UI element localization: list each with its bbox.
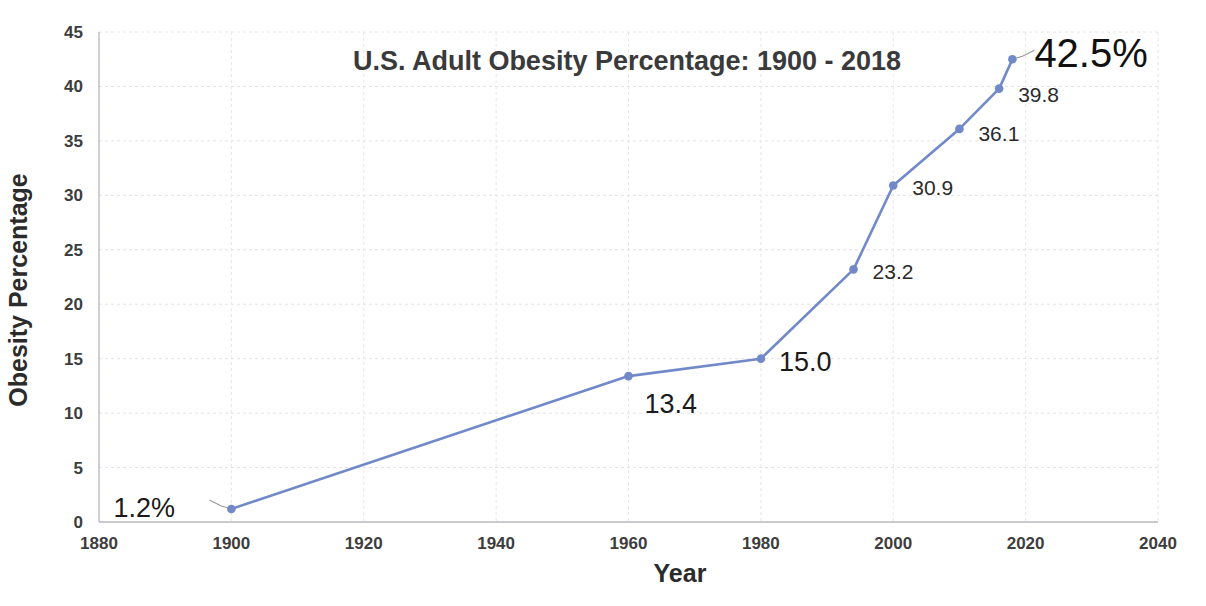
data-point-label: 42.5% [1034, 31, 1147, 75]
chart-title: U.S. Adult Obesity Percentage: 1900 - 20… [353, 46, 901, 76]
data-point-marker [995, 84, 1004, 93]
x-axis-tick-label: 2020 [1007, 534, 1045, 553]
data-series-group [231, 59, 1012, 509]
x-axis-tick-label: 1960 [610, 534, 648, 553]
y-axis-tick-label: 20 [64, 295, 83, 314]
y-axis-tick-label: 45 [64, 23, 83, 42]
x-axis-tick-label: 1980 [742, 534, 780, 553]
obesity-line-chart: 051015202530354045 188019001920194019601… [0, 0, 1206, 606]
y-axis-tick-label: 25 [64, 241, 83, 260]
data-point-labels: 1.2%13.415.023.230.936.139.842.5% [113, 31, 1147, 523]
data-point-marker [227, 505, 236, 514]
data-point-label: 30.9 [912, 176, 953, 199]
data-point-marker [889, 181, 898, 190]
data-point-label: 36.1 [978, 122, 1019, 145]
chart-canvas: 051015202530354045 188019001920194019601… [0, 0, 1206, 606]
x-axis-tick-label: 1900 [212, 534, 250, 553]
data-point-markers [227, 55, 1017, 513]
x-axis-tick-labels: 188019001920194019601980200020202040 [80, 534, 1177, 553]
y-axis-tick-label: 15 [64, 350, 83, 369]
data-point-label: 15.0 [779, 347, 832, 377]
y-axis-tick-label: 35 [64, 132, 83, 151]
data-point-marker [1008, 55, 1017, 64]
x-axis-tick-label: 1920 [345, 534, 383, 553]
y-axis-title: Obesity Percentage [4, 173, 32, 407]
data-point-label: 1.2% [113, 493, 175, 523]
data-point-marker [849, 265, 858, 274]
y-axis-tick-label: 40 [64, 77, 83, 96]
data-point-marker [624, 372, 633, 381]
x-axis-title: Year [654, 559, 707, 587]
y-axis-tick-label: 30 [64, 186, 83, 205]
y-axis-tick-label: 10 [64, 404, 83, 423]
data-point-label: 13.4 [645, 389, 698, 419]
series-line [231, 59, 1012, 509]
data-point-marker [955, 125, 964, 134]
y-axis-tick-label: 5 [74, 459, 83, 478]
gridlines [99, 32, 1158, 522]
x-axis-tick-label: 1940 [477, 534, 515, 553]
data-point-label: 39.8 [1018, 83, 1059, 106]
y-axis-tick-labels: 051015202530354045 [64, 23, 83, 532]
data-point-label: 23.2 [873, 260, 914, 283]
x-axis-tick-label: 2040 [1139, 534, 1177, 553]
y-axis-tick-label: 0 [74, 513, 83, 532]
x-axis-tick-label: 1880 [80, 534, 118, 553]
data-point-marker [757, 354, 766, 363]
x-axis-tick-label: 2000 [874, 534, 912, 553]
